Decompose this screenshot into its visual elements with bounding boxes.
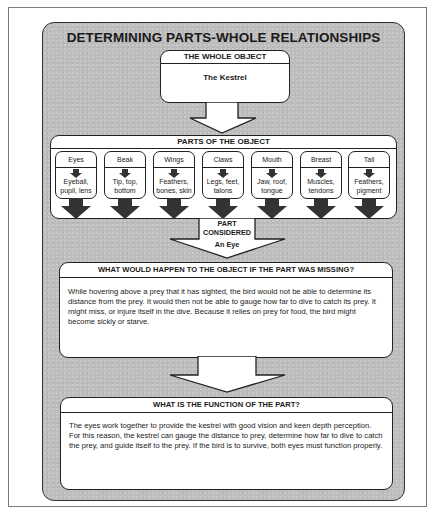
part-considered-value: An Eye [199,240,255,249]
missing-part-answer: While hovering above a prey that it has … [60,278,392,327]
part-card-claws: Claws Legs, feet, talons [202,151,244,199]
parts-of-object-box: PARTS OF THE OBJECT Eyes Eyeball, pupil,… [50,135,397,219]
part-subparts: Muscles, tendons [301,178,341,195]
big-down-arrow-icon [208,198,238,219]
big-down-arrow-icon [257,198,287,219]
part-name: Claws [203,152,243,168]
part-card-breast: Breast Muscles, tendons [300,151,342,199]
small-down-arrow-icon [168,169,180,178]
part-name: Tail [349,152,389,168]
part-name: Beak [105,152,145,168]
big-down-arrow-icon [61,198,91,219]
part-subparts: Legs, feet, talons [203,178,243,195]
whole-object-header: THE WHOLE OBJECT [161,51,289,64]
down-arrow-icon [188,102,258,135]
part-card-tail: Tail Feathers, pigment [348,151,390,199]
small-down-arrow-icon [217,169,229,178]
small-down-arrow-icon [315,169,327,178]
parts-header: PARTS OF THE OBJECT [51,136,396,149]
small-down-arrow-icon [119,169,131,178]
part-card-beak: Beak Tip, top, bottom [104,151,146,199]
missing-part-header: WHAT WOULD HAPPEN TO THE OBJECT IF THE P… [60,263,392,278]
whole-object-value: The Kestrel [161,73,289,82]
part-name: Eyes [56,152,96,168]
small-down-arrow-icon [363,169,375,178]
part-card-eyes: Eyes Eyeball, pupil, lens [55,151,97,199]
missing-part-box: WHAT WOULD HAPPEN TO THE OBJECT IF THE P… [59,262,393,358]
part-name: Mouth [252,152,292,168]
part-subparts: Feathers, pigment [349,178,389,195]
function-answer: The eyes work together to provide the ke… [61,413,392,451]
part-card-mouth: Mouth Jaw, roof, tongue [251,151,293,199]
part-considered-line2: CONSIDERED [199,228,255,237]
down-arrow-icon [168,356,288,394]
small-down-arrow-icon [266,169,278,178]
function-header: WHAT IS THE FUNCTION OF THE PART? [61,398,392,413]
big-down-arrow-icon [159,198,189,219]
part-subparts: Jaw, roof, tongue [252,178,292,195]
part-considered-line1: PART [199,219,255,228]
function-of-part-box: WHAT IS THE FUNCTION OF THE PART? The ey… [60,397,393,490]
part-card-wings: Wings Feathers, bones, skin [153,151,195,199]
diagram-title: DETERMINING PARTS-WHOLE RELATIONSHIPS [42,30,405,45]
part-name: Wings [154,152,194,168]
small-down-arrow-icon [70,169,82,178]
whole-object-box: THE WHOLE OBJECT The Kestrel [160,50,290,103]
part-name: Breast [301,152,341,168]
part-subparts: Tip, top, bottom [105,178,145,195]
part-subparts: Feathers, bones, skin [154,178,194,195]
part-considered-label: PART CONSIDERED An Eye [199,219,255,249]
part-subparts: Eyeball, pupil, lens [56,178,96,195]
big-down-arrow-icon [110,198,140,219]
big-down-arrow-icon [306,198,336,219]
big-down-arrow-icon [354,198,384,219]
